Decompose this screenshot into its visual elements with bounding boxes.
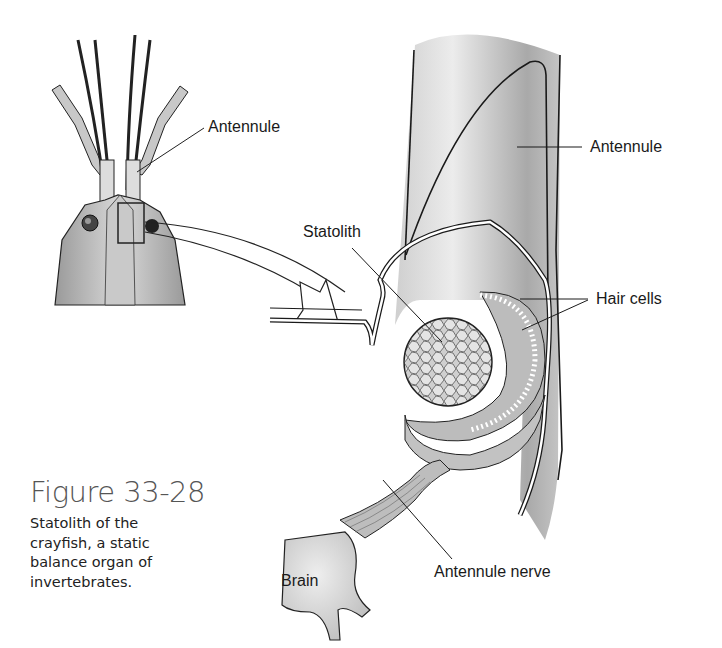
figure-title: Figure 33-28 bbox=[30, 475, 205, 509]
arrow-icon bbox=[295, 280, 338, 322]
statolith-sphere bbox=[404, 318, 492, 406]
figure-caption: Statolith of the crayfish, a static bala… bbox=[30, 514, 200, 592]
antennule-enlarged bbox=[270, 35, 562, 540]
label-antennule-main: Antennule bbox=[590, 138, 662, 156]
label-statolith: Statolith bbox=[303, 223, 361, 241]
label-hair-cells: Hair cells bbox=[596, 290, 662, 308]
crayfish-head-inset bbox=[52, 35, 188, 305]
label-antennule-inset: Antennule bbox=[208, 118, 280, 136]
label-brain: Brain bbox=[281, 572, 318, 590]
label-antennule-nerve: Antennule nerve bbox=[434, 563, 551, 581]
